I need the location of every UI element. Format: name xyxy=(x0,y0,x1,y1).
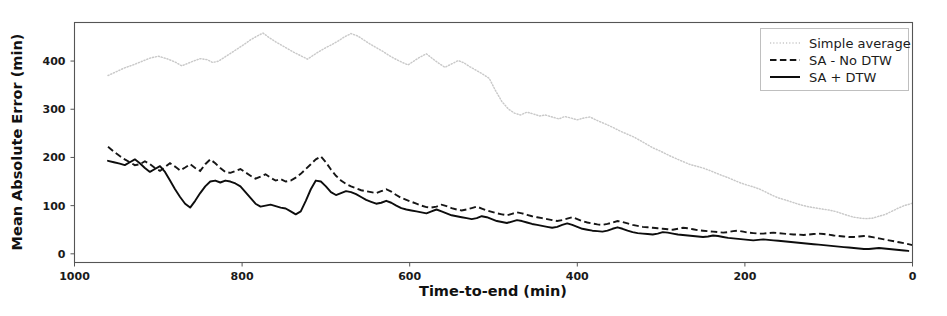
x-tick-label: 1000 xyxy=(59,270,90,283)
y-tick-label: 100 xyxy=(43,200,66,213)
x-tick-label: 800 xyxy=(231,270,254,283)
x-tick-label: 200 xyxy=(733,270,756,283)
legend-label-sa-dtw: SA + DTW xyxy=(809,70,876,85)
y-tick-label: 0 xyxy=(58,248,66,261)
y-tick-label: 200 xyxy=(43,151,66,164)
y-axis-title: Mean Absolute Error (min) xyxy=(9,34,25,251)
x-tick-label: 0 xyxy=(909,270,917,283)
y-tick-label: 400 xyxy=(43,55,66,68)
chart-legend: Simple average SA - No DTW SA + DTW xyxy=(761,29,911,91)
legend-label-sa-no-dtw: SA - No DTW xyxy=(809,53,892,68)
chart-canvas: 10008006004002000 0100200300400 Time-to-… xyxy=(0,0,947,316)
legend-label-simple-average: Simple average xyxy=(809,36,911,51)
x-axis-title: Time-to-end (min) xyxy=(419,283,567,299)
x-tick-label: 400 xyxy=(566,270,589,283)
x-tick-label: 600 xyxy=(398,270,421,283)
chart-figure: 10008006004002000 0100200300400 Time-to-… xyxy=(0,0,947,316)
y-tick-label: 300 xyxy=(43,103,66,116)
